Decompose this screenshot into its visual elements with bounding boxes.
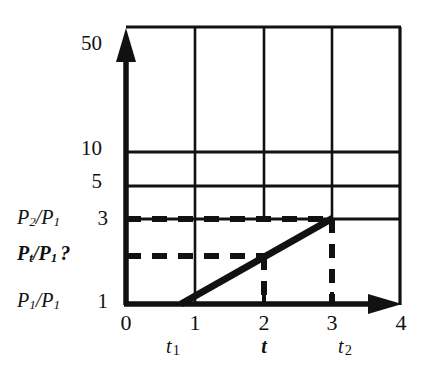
p2-denominator: /P — [36, 206, 54, 228]
p2-numerator: P — [17, 206, 29, 228]
p1-denominator-sub: 1 — [54, 297, 61, 312]
y-label-p2-over-p1: P2/P1 — [17, 207, 60, 229]
y-tick-label-1: 1 — [88, 291, 108, 312]
t1-base: t — [166, 335, 172, 357]
p2-numerator-sub: 2 — [29, 214, 36, 229]
p1-numerator-sub: 1 — [29, 297, 36, 312]
data-line-pressure-ratio — [181, 218, 333, 304]
pt-numerator: P — [17, 242, 29, 264]
t-base: t — [261, 335, 267, 357]
t2-sub: 2 — [344, 342, 352, 358]
x-symbol-label-t2: t2 — [320, 336, 370, 357]
x-tick-label-1: 1 — [180, 312, 210, 334]
t2-base: t — [338, 335, 344, 357]
p1-denominator: /P — [36, 289, 54, 311]
y-tick-label-5: 5 — [72, 171, 102, 192]
pt-query-mark: ? — [57, 242, 70, 264]
p2-denominator-sub: 1 — [54, 214, 61, 229]
t1-sub: 1 — [172, 342, 180, 358]
x-tick-label-2: 2 — [249, 312, 279, 334]
x-tick-label-0: 0 — [111, 312, 141, 334]
p1-numerator: P — [17, 289, 29, 311]
y-axis-arrowhead — [116, 28, 136, 62]
pressure-ratio-chart: 50 10 5 3 1 P2/P1 Pt/P1? P1/P1 0 1 2 3 4… — [0, 0, 424, 365]
pt-denominator: /P — [33, 242, 51, 264]
x-tick-label-4: 4 — [386, 312, 416, 334]
x-tick-label-3: 3 — [317, 312, 347, 334]
chart-canvas — [0, 0, 424, 365]
x-symbol-label-t: t — [249, 336, 279, 356]
y-tick-label-3: 3 — [88, 208, 108, 229]
y-label-pt-over-p1: Pt/P1? — [17, 243, 70, 265]
y-tick-label-10: 10 — [72, 138, 102, 159]
x-symbol-label-t1: t1 — [148, 336, 198, 357]
y-label-p1-over-p1: P1/P1 — [17, 290, 60, 312]
y-tick-label-50: 50 — [72, 33, 102, 54]
